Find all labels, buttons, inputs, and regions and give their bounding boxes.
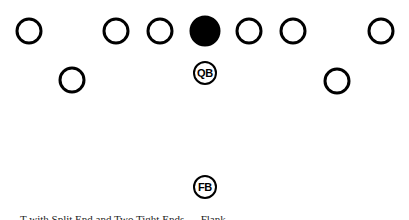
player-center	[190, 16, 221, 47]
player-right-tackle	[280, 18, 307, 45]
player-right-wingback	[324, 68, 351, 95]
player-left-guard	[147, 18, 174, 45]
player-split-end	[16, 18, 43, 45]
formation-caption: T with Split End and Two Tight Ends — Fl…	[20, 213, 226, 220]
player-left-wingback	[59, 67, 86, 94]
player-right-end	[368, 18, 395, 45]
player-left-tackle	[103, 18, 130, 45]
player-quarterback: QB	[193, 61, 217, 85]
player-fullback: FB	[193, 175, 217, 199]
player-right-guard	[236, 18, 263, 45]
